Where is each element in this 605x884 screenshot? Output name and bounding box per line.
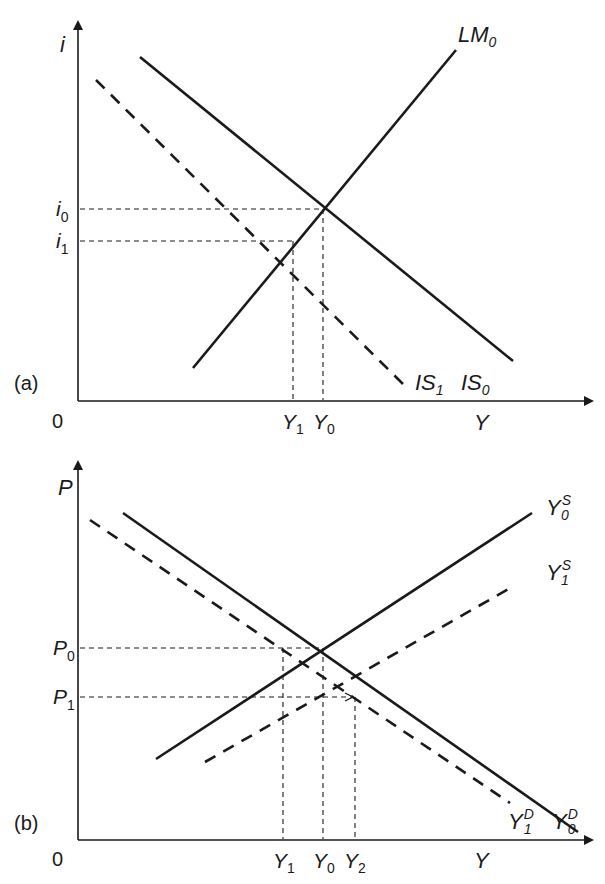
y1-label-b: Y1: [273, 849, 295, 876]
panel-label-a: (a): [14, 372, 38, 394]
yd1-curve: [90, 520, 510, 803]
is-lm-ad-as-diagram: i 0 (a) Y LM0 IS1 IS0 i0 i1 Y1 Y0: [0, 0, 605, 884]
p1-label: P1: [53, 685, 75, 713]
y0-label-b: Y0: [313, 849, 335, 876]
p-axis-label: P: [58, 475, 73, 500]
ys1-curve: [205, 587, 512, 762]
panel-label-b: (b): [14, 812, 38, 834]
yd1-label: YD1: [508, 806, 534, 837]
ys1-label: YS1: [546, 557, 572, 588]
y1-label-a: Y1: [282, 410, 304, 437]
origin-label-a: 0: [52, 410, 63, 432]
panel-a: i 0 (a) Y LM0 IS1 IS0 i0 i1 Y1 Y0: [14, 22, 592, 437]
y2-label-b: Y2: [344, 849, 366, 876]
panel-b: P 0 (b) Y YS0 YS1 YD1 YD0 P0 P1 Y1 Y0 Y2: [14, 462, 592, 876]
ys0-curve: [156, 513, 532, 759]
y0-label-a: Y0: [313, 410, 335, 437]
i-axis-label: i: [60, 32, 66, 57]
is1-label: IS1: [415, 370, 444, 398]
origin-label-b: 0: [52, 848, 63, 870]
i0-label: i0: [56, 197, 69, 225]
p0-label: P0: [53, 636, 75, 664]
y-axis-label-b: Y: [474, 848, 490, 873]
is0-curve: [140, 57, 513, 361]
ys0-label: YS0: [546, 492, 572, 523]
yd0-label: YD0: [552, 806, 578, 837]
lm0-label: LM0: [458, 22, 497, 50]
y-axis-label-a: Y: [474, 410, 490, 435]
is1-curve: [96, 80, 403, 384]
is0-label: IS0: [461, 370, 490, 398]
yd0-curve: [123, 513, 578, 832]
i1-label: i1: [56, 229, 69, 257]
